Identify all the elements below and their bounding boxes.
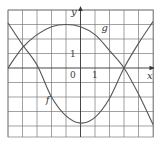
x-axis-label: x bbox=[147, 70, 153, 81]
y-axis-label: y bbox=[70, 6, 77, 17]
series-label-g: g bbox=[102, 22, 108, 33]
function-graph: y x 0 1 1 f g bbox=[0, 0, 162, 147]
origin-label: 0 bbox=[70, 70, 76, 80]
y-tick-label-1: 1 bbox=[70, 49, 76, 59]
x-tick-label-1: 1 bbox=[92, 70, 98, 80]
plot-background bbox=[0, 0, 162, 147]
